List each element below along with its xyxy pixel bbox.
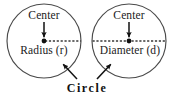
radius-label: Radius (r): [20, 45, 67, 57]
right-circle-center-label: Center: [113, 10, 144, 22]
right-center-dot: [127, 39, 132, 44]
left-circle-center-label: Center: [28, 10, 59, 22]
circle-diagram: Center Center Radius (r) Diameter (d) Ci…: [0, 0, 175, 101]
diameter-label: Diameter (d): [100, 45, 160, 57]
left-center-dot: [42, 39, 47, 44]
circle-title-label: Circle: [67, 82, 108, 94]
